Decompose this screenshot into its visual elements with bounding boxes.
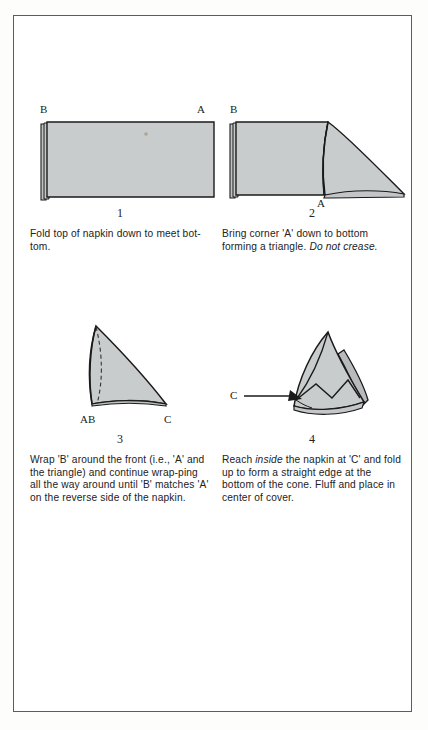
figure-2-label-b: B xyxy=(230,104,237,115)
figure-2-napkin-diagram xyxy=(228,118,410,202)
figure-1-label-b: B xyxy=(40,104,47,115)
step-4-caption-pre: Reach xyxy=(222,454,255,465)
figure-3-label-ab: AB xyxy=(80,414,95,425)
curved-triangle-cone-svg xyxy=(70,320,182,416)
figure-3-label-c: C xyxy=(164,414,171,425)
step-4-number-row: 4 xyxy=(222,432,402,454)
step-2-number-row: 2 xyxy=(222,206,402,228)
step-1-number-row: 1 xyxy=(30,206,210,228)
step-2-caption: Bring corner 'A' down to bottom forming … xyxy=(222,228,402,253)
instruction-content: B A xyxy=(14,16,413,713)
step-4-number: 4 xyxy=(222,432,402,446)
step-4: C 4 Reach inside the napkin at 'C' and f… xyxy=(222,314,402,504)
figure-1-label-a: A xyxy=(197,104,205,115)
step-3: AB C 3 Wrap 'B' around the front (i.e., … xyxy=(30,314,210,504)
step-3-number: 3 xyxy=(30,432,210,446)
step-3-number-row: 3 xyxy=(30,432,210,454)
step-1-figure-area: B A xyxy=(30,88,210,206)
instruction-frame: B A xyxy=(13,15,412,712)
step-1-caption: Fold top of napkin down to meet bot-tom. xyxy=(30,228,210,253)
napkin-corner-folded-svg xyxy=(228,118,410,202)
step-2-figure-area: B A xyxy=(222,88,402,206)
figure-3-napkin-diagram xyxy=(70,320,182,416)
step-2-number: 2 xyxy=(222,206,402,220)
step-1-caption-text: Fold top of napkin down to meet bot-tom. xyxy=(30,228,201,252)
folded-rectangle-napkin-svg xyxy=(38,118,218,204)
step-3-caption-text: Wrap 'B' around the front (i.e., 'A' and… xyxy=(30,454,209,503)
step-3-caption: Wrap 'B' around the front (i.e., 'A' and… xyxy=(30,454,210,504)
step-4-caption-emphasis: inside xyxy=(255,454,283,465)
scanned-page: B A xyxy=(0,0,428,730)
figure-4-label-c: C xyxy=(230,390,237,401)
figure-4-pointer-arrow-icon xyxy=(242,388,304,410)
step-4-caption: Reach inside the napkin at 'C' and fold … xyxy=(222,454,402,504)
step-2-caption-emphasis: Do not crease. xyxy=(309,241,377,252)
step-2: B A xyxy=(222,88,402,253)
step-1: B A xyxy=(30,88,210,253)
figure-1-napkin-diagram xyxy=(38,118,218,204)
step-1-number: 1 xyxy=(30,206,210,220)
step-3-figure-area: AB C xyxy=(30,314,210,432)
step-4-figure-area: C xyxy=(222,314,402,432)
